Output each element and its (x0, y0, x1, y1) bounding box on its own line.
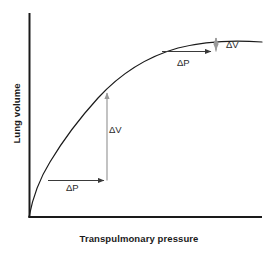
x-axis-title: Transpulmonary pressure (0, 233, 278, 244)
delta-v-high-label: ΔV (226, 39, 239, 50)
compliance-curve (29, 41, 262, 217)
lung-compliance-figure: Transpulmonary pressure Lung volume ΔP Δ… (0, 0, 278, 254)
delta-p-high-label: ΔP (177, 57, 190, 68)
delta-p-low-label: ΔP (66, 182, 79, 193)
y-axis-title: Lung volume (11, 50, 22, 178)
delta-v-low-label: ΔV (109, 124, 122, 135)
